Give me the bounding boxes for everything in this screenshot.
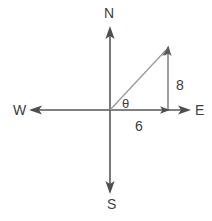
compass-vector-diagram: N S W E 8 6 θ <box>0 0 212 221</box>
horizontal-leg-label: 6 <box>135 119 143 133</box>
compass-label-east: E <box>195 103 204 117</box>
vertical-leg-label: 8 <box>176 78 184 92</box>
resultant-vector-line <box>110 50 166 110</box>
compass-label-north: N <box>104 6 114 20</box>
angle-theta-label: θ <box>122 97 129 111</box>
compass-label-west: W <box>13 103 26 117</box>
compass-label-south: S <box>107 197 116 211</box>
diagram-canvas <box>0 0 212 221</box>
